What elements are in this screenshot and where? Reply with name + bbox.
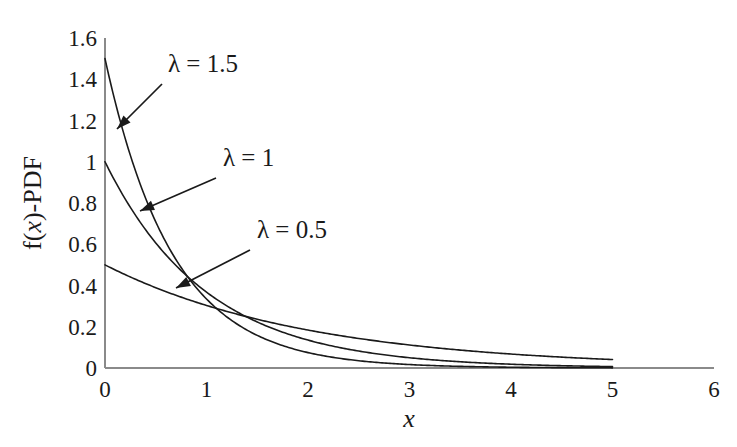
y-axis-title-suffix: )-PDF [18, 156, 47, 221]
svg-text:f(x)-PDF: f(x)-PDF [18, 156, 47, 250]
x-tick-label: 2 [302, 377, 314, 402]
y-tick-label: 1 [86, 150, 98, 175]
series-annotation-labels: λ = 1.5λ = 1λ = 0.5 [168, 50, 327, 243]
y-tick-label: 1.4 [68, 67, 97, 92]
series-annotation-label: λ = 1.5 [168, 50, 238, 77]
x-axis-title: x [402, 404, 415, 433]
y-tick-label: 0.8 [68, 191, 97, 216]
y-tick-label: 0.6 [68, 232, 97, 257]
y-tick-label: 0 [86, 356, 98, 381]
annotation-arrows-group [117, 84, 250, 288]
x-tick-label: 5 [607, 377, 619, 402]
series-annotation-label: λ = 1 [223, 144, 274, 171]
y-tick-label: 0.2 [68, 315, 97, 340]
y-axis-title: f(x)-PDF [18, 156, 47, 250]
y-tick-label: 1.2 [68, 109, 97, 134]
data-curve [105, 265, 613, 360]
x-tick-label: 0 [99, 377, 111, 402]
y-axis-title-prefix: f( [18, 233, 47, 250]
x-tick-label: 4 [505, 377, 517, 402]
x-tick-label: 3 [404, 377, 416, 402]
x-tick-label: 1 [201, 377, 213, 402]
y-axis-tick-labels: 00.20.40.60.811.21.41.6 [68, 26, 97, 381]
y-axis-title-variable: x [18, 221, 47, 234]
x-tick-label: 6 [708, 377, 720, 402]
data-curve [105, 59, 613, 368]
y-tick-label: 1.6 [68, 26, 97, 51]
series-annotation-label: λ = 0.5 [257, 216, 327, 243]
data-series-group [105, 59, 613, 368]
chart-canvas: 00.20.40.60.811.21.41.6 0123456 λ = 1.5λ… [0, 0, 737, 447]
y-tick-label: 0.4 [68, 274, 97, 299]
x-axis-tick-labels: 0123456 [99, 377, 720, 402]
exponential-pdf-figure: 00.20.40.60.811.21.41.6 0123456 λ = 1.5λ… [0, 0, 737, 447]
